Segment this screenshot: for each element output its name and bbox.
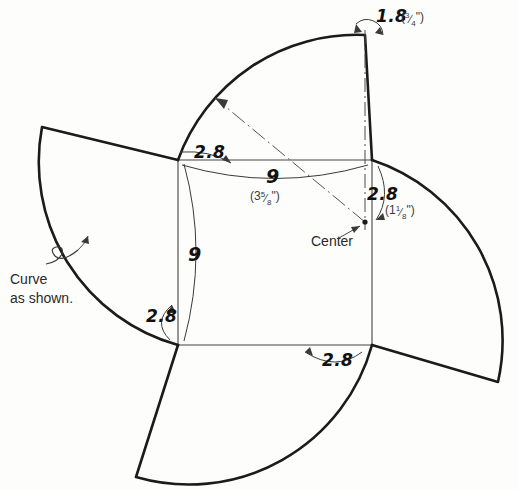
curve-note-line2: as shown. [10,290,73,306]
label-offset-top-left: 2.8 [194,144,225,161]
label-curve-note: Curve as shown. [10,270,73,308]
label-side-top-alt: (35⁄8") [250,190,280,207]
pinwheel-drawing: 1.8 (3⁄4") 9 (35⁄8") 9 2.8 2.8 (11⁄8") 2… [0,0,518,490]
label-side-left-value: 9 [188,245,202,264]
pattern-svg [0,0,518,490]
label-offset-right-alt: (11⁄8") [385,204,415,221]
dim-arrow-offset-right [376,213,385,220]
curve-note-line1: Curve [10,271,47,287]
label-tip-top-alt: (3⁄4") [401,11,424,28]
dimension-annotations [46,20,385,362]
center-point-dot [362,219,367,224]
label-offset-right-value: 2.8 [367,186,398,203]
label-offset-bottom-left: 2.8 [146,308,177,325]
pinwheel-blades [39,35,503,485]
radius-arrowhead [215,98,228,109]
label-side-top-value: 9 [266,167,280,186]
dim-arrow-tip-top-b [375,27,383,35]
inner-square [178,160,372,345]
leader-arrow-curve-note [81,236,89,244]
dim-arrow-tip-top-a [354,24,362,33]
label-offset-bottom: 2.8 [322,352,353,369]
label-center: Center [311,232,353,251]
construction-lines [215,30,368,230]
